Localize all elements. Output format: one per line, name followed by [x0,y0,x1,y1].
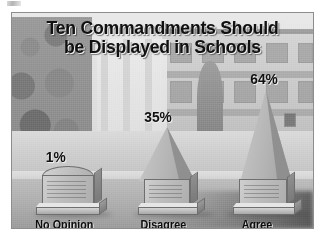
plinth-front [36,207,100,215]
chart-title: Ten Commandments Should be Displayed in … [23,18,303,56]
monument-plinth [138,203,198,215]
monument-plinth [36,203,100,215]
monument-body-side [287,172,295,205]
monument-spire [240,90,292,182]
monument-body [239,179,287,205]
title-line-2: be Displayed in Schools [23,37,303,56]
category-label-no-opinion: No Opinion [35,219,93,228]
value-label-no-opinion: 1% [46,149,66,164]
building-window [170,81,192,103]
value-label-agree: 64% [250,71,278,86]
plinth-front [233,207,295,215]
engraved-text-lines [47,181,86,199]
monument-plinth [233,203,295,215]
scan-artifact [7,1,21,6]
monument-body-side [94,168,102,205]
title-line-1: Ten Commandments Should [47,17,279,38]
monument-body [144,179,190,205]
category-label-disagree: Disagree [141,219,187,228]
monument-spire [139,127,195,181]
monument-body-side [190,172,198,205]
engraved-text-lines [244,185,279,199]
poll-infographic: Ten Commandments Should be Displayed in … [12,13,313,228]
monument-body [42,175,94,205]
building-band-upper [162,71,313,78]
plinth-front [138,207,198,215]
category-label-agree: Agree [242,219,273,228]
building-window [298,81,313,103]
engraved-text-lines [149,185,182,199]
value-label-disagree: 35% [144,109,172,124]
